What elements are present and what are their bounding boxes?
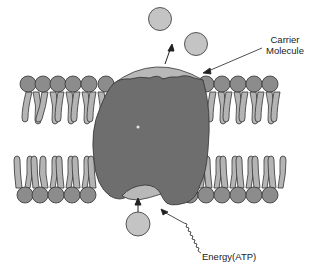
- energy-atp-label: Energy(ATP): [202, 251, 256, 262]
- molecule-outside-1: [149, 8, 172, 31]
- carrier-label-line1: Carrier: [262, 34, 308, 45]
- carrier-label-line2: Molecule: [262, 45, 308, 56]
- molecule-outside-2: [185, 33, 208, 56]
- energy-pointer-arrow: [161, 209, 201, 253]
- protein-highlight: [137, 126, 140, 129]
- carrier-molecule-label: Carrier Molecule: [262, 34, 308, 56]
- molecule-inside: [126, 212, 150, 236]
- arrow-up-out: [165, 44, 174, 64]
- carrier-pointer-arrow: [203, 48, 262, 74]
